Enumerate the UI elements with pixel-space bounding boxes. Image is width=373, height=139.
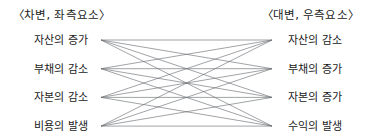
left-column-header: 〈차변, 좌측요소〉 [13,6,110,22]
edge-line [101,40,272,97]
edge-line [101,40,272,97]
edge-line [101,40,272,69]
right-node: 자산의 감소 [267,31,363,60]
edge-line [101,69,272,126]
edge-line [101,97,272,126]
right-node-column: 자산의 감소 부채의 증가 자본의 증가 수익의 발생 [267,31,363,139]
left-node-column: 자산의 증가 부채의 감소 자본의 감소 비용의 발생 [13,31,109,139]
left-node: 비용의 발생 [13,117,109,139]
accounting-elements-diagram: 〈차변, 좌측요소〉 〈대변, 우측요소〉 자산의 증가 부채의 감소 자본의 … [0,0,373,139]
edge-line [101,40,272,69]
left-node: 자산의 증가 [13,31,109,60]
edge-line [101,40,272,126]
right-node: 자본의 증가 [267,88,363,117]
right-column-header: 〈대변, 우측요소〉 [262,6,359,22]
edge-line [101,69,272,98]
left-node: 자본의 감소 [13,88,109,117]
left-node: 부채의 감소 [13,60,109,89]
edge-line [101,97,272,126]
right-node: 부채의 증가 [267,60,363,89]
edge-line [101,40,272,126]
edge-line [101,69,272,126]
edge-line [101,69,272,98]
right-node: 수익의 발생 [267,117,363,139]
